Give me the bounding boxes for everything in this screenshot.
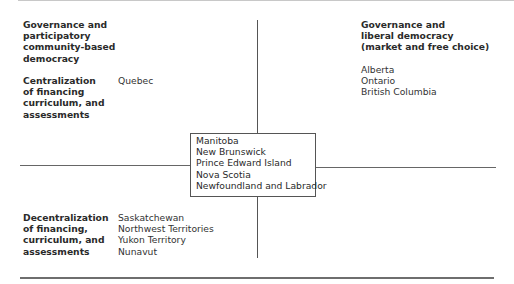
province-item: British Columbia [361,86,437,97]
category-line: Centralization [23,75,104,86]
category-line: curriculum, and [23,234,108,245]
decentralization-label: Decentralization of financing, curriculu… [23,212,108,257]
province-item: New Brunswick [196,146,315,157]
participatory-democracy-heading: Governance and participatory community-b… [23,19,115,64]
centralization-label: Centralization of financing curriculum, … [23,75,104,120]
horizontal-axis-left [20,165,191,166]
decentralization-provinces: Saskatchewan Northwest Territories Yukon… [118,212,214,257]
category-line: assessments [23,246,108,257]
province-item: Nunavut [118,246,214,257]
category-line: curriculum, and [23,97,104,108]
province-item: Alberta [361,64,437,75]
heading-line: liberal democracy [361,30,489,41]
province-item: Nova Scotia [196,169,315,180]
heading-line: Governance and [23,19,115,30]
province-item: Northwest Territories [118,223,214,234]
category-line: of financing [23,86,104,97]
province-item: Saskatchewan [118,212,214,223]
province-item: Yukon Territory [118,234,214,245]
category-line: Decentralization [23,212,108,223]
heading-line: Governance and [361,19,489,30]
province-item: Newfoundland and Labrador [196,180,315,191]
heading-line: participatory [23,30,115,41]
heading-line: democracy [23,53,115,64]
bottom-rule [20,277,494,279]
liberal-democracy-heading: Governance and liberal democracy (market… [361,19,489,53]
centralization-provinces: Quebec [118,75,153,86]
category-line: assessments [23,109,104,120]
province-item: Quebec [118,75,153,86]
province-item: Ontario [361,75,437,86]
heading-line: (market and free choice) [361,41,489,52]
top-rule [18,0,514,1]
province-item: Manitoba [196,135,315,146]
heading-line: community-based [23,41,115,52]
center-provinces-box: Manitoba New Brunswick Prince Edward Isl… [190,133,316,197]
horizontal-axis-right [316,167,496,168]
category-line: of financing, [23,223,108,234]
province-item: Prince Edward Island [196,157,315,168]
liberal-democracy-provinces: Alberta Ontario British Columbia [361,64,437,98]
